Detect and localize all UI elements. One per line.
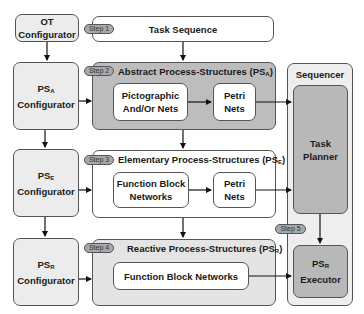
step-4-badge: Step 4: [84, 243, 114, 253]
connector-arrows: [0, 0, 364, 314]
step-2-badge: Step 2: [84, 66, 114, 76]
step-1-badge: Step 1: [84, 24, 114, 34]
step-3-badge: Step 3: [84, 155, 114, 165]
step-5-badge: Step 5: [275, 224, 306, 234]
